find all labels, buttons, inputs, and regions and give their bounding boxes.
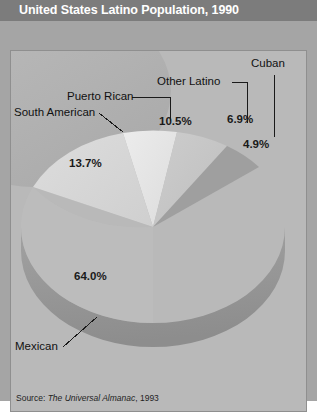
category-label-mexican: Mexican bbox=[15, 340, 58, 352]
source-publication: The Universal Almanac bbox=[48, 393, 136, 403]
category-label-other-latino: Other Latino bbox=[157, 75, 220, 87]
category-label-puerto-rican: Puerto Rican bbox=[67, 90, 133, 102]
source-suffix: , 1993 bbox=[135, 393, 159, 403]
chart-plot-panel: 10.5% 6.9% 4.9% 13.7% 64.0% Puerto Rican… bbox=[10, 50, 307, 412]
source-note: Source: The Universal Almanac, 1993 bbox=[16, 393, 159, 403]
value-label-mexican: 64.0% bbox=[74, 270, 107, 282]
category-label-south-american: South American bbox=[14, 106, 95, 118]
value-label-other-latino: 6.9% bbox=[227, 113, 253, 125]
chart-frame: 10.5% 6.9% 4.9% 13.7% 64.0% Puerto Rican… bbox=[0, 21, 317, 401]
chart-title-bar: United States Latino Population, 1990 bbox=[0, 0, 317, 21]
value-label-puerto-rican: 10.5% bbox=[159, 115, 192, 127]
source-prefix: Source: bbox=[16, 393, 48, 403]
value-label-south-american: 13.7% bbox=[69, 157, 102, 169]
page-title: United States Latino Population, 1990 bbox=[19, 3, 239, 17]
category-label-cuban: Cuban bbox=[251, 57, 285, 69]
value-label-cuban: 4.9% bbox=[243, 138, 269, 150]
